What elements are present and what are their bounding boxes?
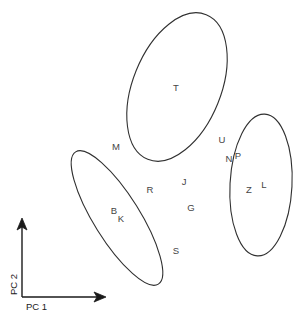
y-axis-label: PC 2: [8, 274, 19, 295]
point-label-k: K: [118, 213, 125, 224]
pca-scatter-plot: T M U N P J R Z L G B K S PC 1 PC 2: [0, 0, 302, 320]
point-label-b: B: [111, 205, 117, 216]
point-label-t: T: [173, 82, 179, 93]
point-labels: T M U N P J R Z L G B K S: [111, 82, 267, 256]
x-axis-label: PC 1: [26, 301, 47, 312]
point-label-n: N: [226, 153, 233, 164]
point-label-g: G: [187, 202, 194, 213]
point-label-z: Z: [246, 184, 252, 195]
point-label-u: U: [219, 134, 226, 145]
plot-canvas: T M U N P J R Z L G B K S PC 1 PC 2: [0, 0, 302, 320]
point-label-p: P: [235, 150, 241, 161]
point-label-r: R: [147, 184, 154, 195]
point-label-m: M: [112, 141, 120, 152]
point-label-s: S: [173, 245, 179, 256]
point-label-j: J: [182, 176, 187, 187]
axes: PC 1 PC 2: [8, 218, 106, 312]
point-label-l: L: [261, 179, 266, 190]
